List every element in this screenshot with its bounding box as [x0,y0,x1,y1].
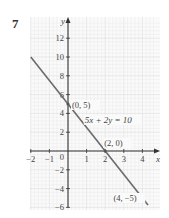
origin-label: 0 [60,152,64,162]
point-label: (2, 0) [104,138,123,148]
x-tick-label: 3 [122,154,126,164]
y-tick-label: 8 [60,71,64,81]
point-label: (0, 5) [72,100,91,110]
y-tick-label: 10 [56,52,65,62]
point-marker [104,149,107,152]
y-tick-label: 12 [56,33,65,43]
y-tick-label: 2 [60,127,64,137]
grid [30,17,160,210]
x-tick-label: 1 [84,154,88,164]
x-tick-label: −1 [45,154,54,164]
point-label: (4, −5) [113,193,136,203]
x-tick-label: 2 [103,154,107,164]
y-tick-label: −2 [55,165,64,175]
equation-label: 5x + 2y = 10 [85,115,133,125]
coordinate-graph: xy −2−1123412108642−2−4−60 (0, 5)(2, 0)(… [0,0,169,218]
x-axis-label: x [155,154,160,164]
x-tick-label: −2 [26,154,35,164]
point-marker [66,102,69,105]
y-tick-label: −4 [55,184,65,194]
x-tick-label: 4 [140,154,145,164]
y-tick-label: −6 [55,202,64,212]
y-axis-label: y [60,16,65,26]
